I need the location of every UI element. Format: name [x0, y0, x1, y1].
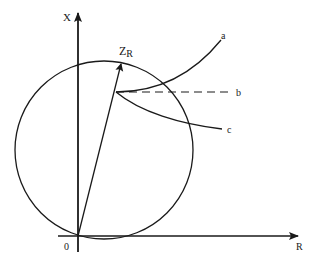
zr-label: ZR — [119, 44, 133, 59]
line-b-label: b — [236, 87, 241, 98]
curve-c-label: c — [227, 124, 232, 135]
zr-label-main: Z — [119, 44, 126, 58]
curve-c — [116, 92, 222, 129]
r-axis-label: R — [296, 241, 303, 252]
diagram-canvas: X R 0 ZR a b c — [0, 0, 314, 266]
zr-label-sub: R — [126, 48, 133, 59]
origin-label: 0 — [64, 241, 69, 252]
x-axis-label: X — [63, 11, 71, 23]
zr-vector — [78, 64, 121, 236]
circle — [15, 61, 193, 239]
curve-a-label: a — [221, 30, 226, 41]
